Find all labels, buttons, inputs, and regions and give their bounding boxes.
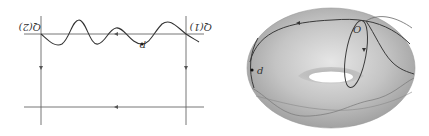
label-q2: Q(2)	[19, 22, 41, 33]
label-d: d	[257, 65, 263, 76]
arrow-icon	[114, 32, 118, 36]
arrow-icon	[39, 66, 43, 70]
label-q1: Q(1)	[190, 22, 212, 33]
torus-diagram: d O	[247, 8, 415, 128]
label-o: O	[353, 24, 361, 35]
fundamental-domain-diagram: Q(2) Q(1) p	[19, 16, 212, 125]
point-d-marker	[250, 68, 253, 71]
arrow-icon	[184, 66, 188, 70]
figure: Q(2) Q(1) p d O	[0, 0, 429, 136]
label-p: p	[139, 41, 146, 52]
wavy-curve	[41, 20, 199, 45]
arrow-icon	[114, 105, 118, 109]
torus-hole	[309, 72, 353, 83]
